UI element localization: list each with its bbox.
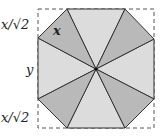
label-left-side: y [25,62,34,77]
octagon-diagram: x/√2 y x/√2 x [0,0,166,139]
label-top-corner: x/√2 [1,17,29,32]
center-point [94,67,97,70]
label-triangle-side: x [52,23,61,38]
label-bottom-corner: x/√2 [1,110,29,125]
